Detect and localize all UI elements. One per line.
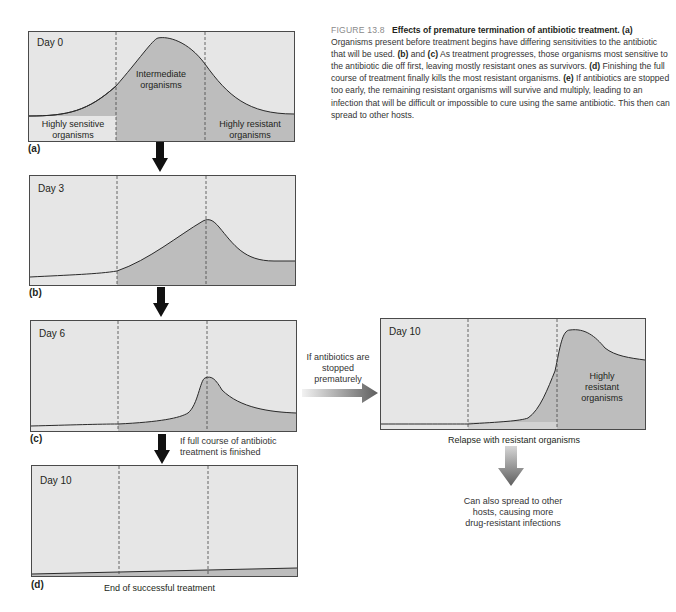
right-arrow-icon [302, 383, 378, 403]
panel-b-day3: Day 3 (b) [29, 175, 296, 286]
panel-c-graph [30, 320, 297, 432]
day-label: Day 10 [389, 326, 421, 337]
caption-tag-d: (d) [589, 61, 600, 71]
panel-label-d: (d) [31, 579, 44, 590]
day-label: Day 0 [37, 37, 63, 48]
down-arrow-icon [152, 142, 168, 172]
highly-resistant-organisms-label: Highly resistant organisms [208, 119, 292, 141]
panel-d-day10: Day 10 (d) End of successful treatment [31, 465, 298, 577]
down-arrow-icon [153, 287, 169, 317]
caption-tag-e: (e) [563, 73, 574, 83]
day-label: Day 6 [39, 328, 65, 339]
intermediate-organisms-label: Intermediate organisms [126, 69, 196, 91]
panel-label-c: (c) [30, 433, 42, 444]
down-arrow-icon [498, 446, 524, 486]
panel-b-graph [29, 175, 296, 286]
relapse-footer: Relapse with resistant organisms [448, 435, 580, 445]
figure-title: Effects of premature termination of anti… [392, 25, 620, 35]
panel-a-day0: Day 0 Intermediate organisms Highly sens… [28, 31, 295, 142]
stopped-early-note: If antibiotics are stopped prematurely [305, 352, 371, 385]
spread-note: Can also spread to other hosts, causing … [463, 496, 563, 529]
successful-treatment-footer: End of successful treatment [104, 583, 215, 593]
caption-tag-c: (c) [428, 49, 439, 59]
day-label: Day 3 [38, 183, 64, 194]
full-course-note: If full course of antibiotic treatment i… [180, 436, 300, 458]
panel-label-a: (a) [28, 143, 40, 154]
caption-tag-b: (b) [397, 49, 408, 59]
figure-number: FIGURE 13.8 [331, 25, 385, 35]
figure-caption: FIGURE 13.8 Effects of premature termina… [331, 24, 671, 121]
panel-e-day10-relapse: Day 10 Highly resistant organisms Relaps… [380, 318, 646, 430]
day-label: Day 10 [40, 475, 72, 486]
highly-sensitive-organisms-label: Highly sensitive organisms [32, 119, 114, 141]
caption-tag-a: (a) [622, 25, 633, 35]
panel-c-day6: Day 6 (c) [30, 320, 297, 432]
down-arrow-icon [154, 434, 170, 464]
highly-resistant-organisms-label: Highly resistant organisms [572, 371, 632, 404]
panel-label-b: (b) [29, 287, 42, 298]
caption-text-b: and [408, 49, 427, 59]
